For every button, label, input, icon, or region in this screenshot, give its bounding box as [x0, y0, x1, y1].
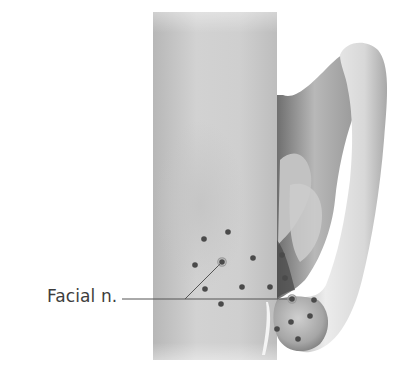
injection-point: [288, 319, 294, 325]
injection-point: [202, 286, 208, 292]
injection-point: [225, 229, 231, 235]
injection-point: [274, 326, 280, 332]
neck: [153, 12, 277, 360]
injection-point: [295, 336, 301, 342]
injection-point: [219, 259, 225, 265]
injection-point: [311, 297, 317, 303]
injection-point: [289, 296, 295, 302]
injection-point: [267, 284, 273, 290]
injection-point: [192, 262, 198, 268]
injection-point: [239, 284, 245, 290]
injection-point: [250, 255, 256, 261]
injection-point: [201, 236, 207, 242]
injection-point: [279, 252, 285, 258]
facial-nerve-label: Facial n.: [47, 286, 117, 306]
injection-point: [218, 301, 224, 307]
injection-point: [282, 275, 288, 281]
ear: [262, 43, 387, 355]
anatomy-diagram: [0, 0, 418, 386]
injection-point: [307, 313, 313, 319]
ear-nerve-block-illustration: Facial n.: [0, 0, 418, 386]
